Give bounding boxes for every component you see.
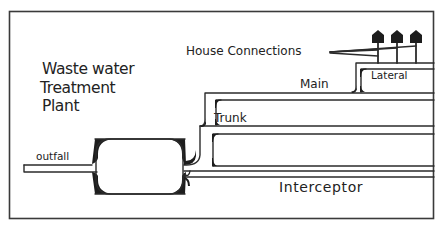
interceptor-label: Interceptor (279, 179, 363, 195)
trunk-label: Trunk (213, 111, 247, 125)
house-connections: House Connections (186, 30, 422, 63)
title-line-3: Plant (42, 97, 79, 115)
outfall-label: outfall (36, 150, 69, 162)
tank-to-trunk-connector: Trunk (184, 111, 434, 165)
house-icon (391, 30, 403, 43)
outfall-pipe: outfall (24, 150, 97, 172)
lateral-pipe: Lateral (352, 63, 434, 93)
house-icon (372, 30, 384, 43)
interceptor-pipe: Interceptor (184, 171, 434, 195)
lateral-label: Lateral (371, 69, 408, 81)
treatment-tank (92, 139, 186, 194)
trunk-pipe (212, 134, 434, 166)
sewer-system-diagram: Waste water Treatment Plant outfall Inte… (0, 0, 446, 225)
title-line-2: Treatment (39, 79, 116, 97)
house-connections-label: House Connections (186, 44, 302, 58)
title-line-1: Waste water (42, 60, 135, 78)
treatment-plant-title: Waste water Treatment Plant (39, 60, 135, 115)
main-label: Main (300, 77, 329, 91)
house-icon (410, 30, 422, 43)
